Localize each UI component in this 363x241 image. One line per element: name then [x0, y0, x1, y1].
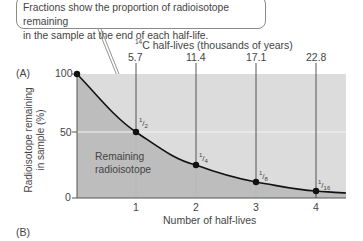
fraction-label: 1/8 — [259, 170, 268, 182]
half-life-chart — [0, 0, 363, 241]
top-tick: 11.4 — [186, 51, 206, 63]
fraction-label: 1/16 — [318, 179, 330, 191]
top-axis-label: 14C half-lives (thousands of years) — [135, 38, 293, 51]
area-label: Remaining radioisotope — [95, 150, 151, 176]
fraction-label: 1/2 — [139, 117, 148, 129]
y-tick: 100 — [55, 67, 73, 79]
panel-label-b: (B) — [16, 226, 30, 238]
x-tick: 2 — [193, 201, 199, 213]
x-tick: 1 — [133, 201, 139, 213]
data-point — [133, 129, 139, 135]
x-tick: 3 — [253, 201, 259, 213]
top-tick: 22.8 — [306, 51, 326, 63]
top-tick: 17.1 — [246, 51, 266, 63]
x-axis-label: Number of half-lives — [163, 214, 256, 226]
y-tick: 50 — [60, 126, 72, 138]
y-axis-label: Radioisotope remaining in sample (%) — [23, 75, 47, 205]
x-tick: 4 — [313, 201, 319, 213]
top-tick: 5.7 — [128, 51, 143, 63]
y-tick: 0 — [65, 191, 71, 203]
data-point — [74, 71, 80, 77]
fraction-label: 1/4 — [199, 152, 208, 164]
